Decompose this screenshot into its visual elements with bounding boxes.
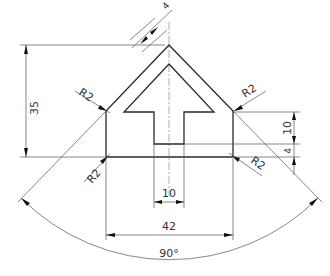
dim-label-10-stem-width: 10 [162,187,176,200]
dim-label-42: 42 [162,220,176,233]
angle-extension-left [18,111,106,202]
arrowhead [24,45,28,54]
radius-label-bottom-left: R2 [84,166,103,186]
angle-extension-right [233,111,322,202]
dim-label-10-stem-height: 10 [281,121,294,135]
arrowhead [176,200,184,204]
arrowhead [292,157,296,165]
arrowhead [154,200,162,204]
arrowhead [150,27,158,35]
dim-label-35: 35 [28,101,41,115]
dim-label-90-deg: 90° [159,247,179,260]
arrowhead [106,233,115,237]
arrowhead [292,136,296,144]
dim-label-4-bottom: 4 [283,148,293,154]
arrowhead [224,233,233,237]
radius-label-top-left: R2 [76,86,95,105]
radius-label-top-right: R2 [240,82,259,101]
dim-label-4-wall: 4 [160,0,171,11]
arrowhead [24,148,28,157]
dimension-line-4-wall [132,10,172,48]
arrowhead [140,36,148,44]
outer-outline [106,45,233,157]
extension-line [130,18,155,40]
technical-drawing: 35 4 R2 R2 R2 R2 10 4 10 42 90° [0,0,330,276]
arrowhead [21,198,30,206]
arrowhead [292,112,296,120]
arrowhead [309,198,318,206]
extension-line [142,30,167,52]
